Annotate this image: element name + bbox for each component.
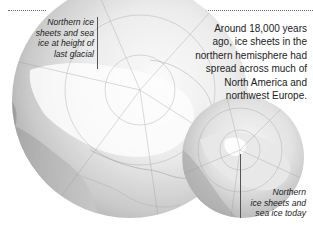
paragraph-line: ago, ice sheets in the (180, 35, 307, 48)
paragraph-line: spread across much of (180, 62, 307, 75)
label-line: sheets and sea (10, 28, 94, 39)
paragraph-line: northwest Europe. (180, 89, 307, 102)
paragraph-line: northern hemisphere had (180, 49, 307, 62)
label-line: Northern ice (10, 17, 94, 28)
description-paragraph: Around 18,000 years ago, ice sheets in t… (180, 22, 307, 102)
label-line: Northern (226, 187, 306, 198)
paragraph-line: North America and (180, 76, 307, 89)
label-line: ice sheets and (226, 198, 306, 209)
past-label-leader-line (97, 17, 98, 69)
today-label: Northern ice sheets and sea ice today (226, 187, 306, 219)
label-line: ice at height of (10, 38, 94, 49)
paragraph-line: Around 18,000 years (180, 22, 307, 35)
ice-age-figure: Northern ice sheets and sea ice at heigh… (0, 0, 313, 225)
label-line: sea ice today (226, 208, 306, 219)
label-line: last glacial (10, 49, 94, 60)
last-glacial-label: Northern ice sheets and sea ice at heigh… (10, 17, 94, 59)
